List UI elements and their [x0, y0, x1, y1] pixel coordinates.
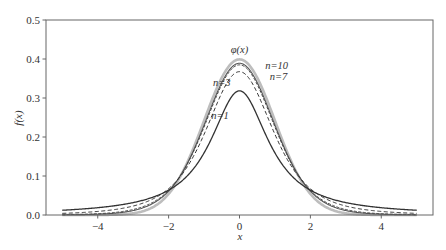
y-tick-label: 0.3: [26, 92, 40, 104]
annotation-label: n=7: [270, 71, 288, 82]
annotation-label: n=3: [213, 77, 231, 88]
annotation-label: n=10: [265, 60, 289, 71]
annotation-label: n=1: [211, 110, 229, 121]
y-tick-label: 0.1: [26, 170, 40, 182]
curve-n-7: [62, 65, 416, 215]
x-tick-label: 4: [379, 220, 385, 232]
y-axis-label: f(x): [12, 110, 25, 126]
y-tick-label: 0.4: [26, 53, 40, 65]
chart: −4−2024 0.00.10.20.30.40.5 φ(x)n=10n=7n=…: [0, 0, 446, 250]
y-tick-label: 0.5: [26, 14, 40, 26]
y-axis-ticks: 0.00.10.20.30.40.5: [26, 14, 46, 221]
x-tick-label: 2: [308, 220, 314, 232]
y-tick-label: 0.2: [26, 131, 40, 143]
plot-curves: [62, 59, 416, 215]
x-tick-label: −4: [92, 220, 104, 232]
curve-n-1: [62, 91, 416, 210]
curve-x: [62, 59, 416, 215]
annotation-label: φ(x): [231, 44, 249, 56]
curve-annotations: φ(x)n=10n=7n=3n=1: [211, 44, 289, 121]
x-axis-label: x: [237, 230, 243, 242]
curve-n-10: [62, 63, 416, 215]
x-tick-label: −2: [163, 220, 175, 232]
curve-n-3: [62, 72, 416, 214]
y-tick-label: 0.0: [26, 209, 40, 221]
